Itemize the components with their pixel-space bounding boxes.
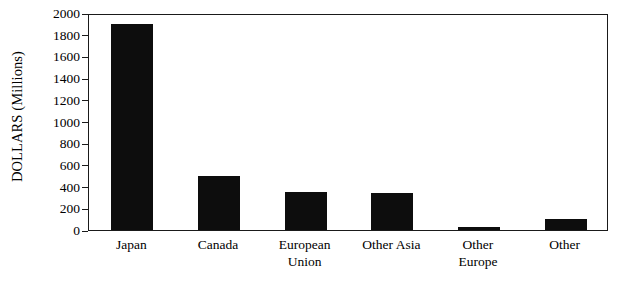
y-axis-tick-label: 0 — [32, 224, 80, 238]
y-axis-tick-label: 1400 — [32, 72, 80, 86]
y-axis-tick-label: 1800 — [32, 29, 80, 43]
plot-area — [88, 14, 608, 231]
x-axis-tick-labels: JapanCanadaEuropeanUnionOther AsiaOtherE… — [88, 236, 608, 294]
y-axis-title: DOLLARS (Millions) — [0, 0, 36, 232]
y-axis-tick-label: 200 — [32, 203, 80, 217]
bar — [111, 24, 153, 230]
bar — [458, 227, 500, 230]
y-axis-tick-label: 2000 — [32, 7, 80, 21]
x-axis-tick-label: Canada — [175, 236, 262, 253]
y-axis-tick-label: 600 — [32, 159, 80, 173]
y-axis-tick-label: 1200 — [32, 94, 80, 108]
x-axis-tick-label-line: Canada — [198, 237, 238, 252]
x-axis-tick-label-line: Other — [549, 237, 580, 252]
y-axis-tick-labels: 0200400600800100012001400160018002000 — [32, 14, 80, 231]
x-axis-tick-label: OtherEurope — [435, 236, 522, 270]
x-axis-tick-label: Japan — [88, 236, 175, 253]
x-axis-tick-label-line: Other — [463, 237, 494, 252]
bar — [371, 193, 413, 230]
x-axis-tick-label-line: European — [279, 237, 331, 252]
x-axis-tick-label: Other Asia — [348, 236, 435, 253]
x-axis-tick-label-line: Other Asia — [362, 237, 420, 252]
x-axis-tick-label-line: Europe — [435, 253, 522, 270]
x-axis-tick-label: EuropeanUnion — [261, 236, 348, 270]
bars-layer — [89, 15, 607, 230]
bar — [198, 176, 240, 230]
y-axis-tick-label: 1600 — [32, 51, 80, 65]
x-axis-tick-label-line: Union — [261, 253, 348, 270]
x-axis-tick-label: Other — [521, 236, 608, 253]
y-axis-title-label: DOLLARS (Millions) — [10, 50, 27, 181]
y-axis-tick-label: 800 — [32, 137, 80, 151]
y-axis-tick-label: 400 — [32, 181, 80, 195]
x-axis-tick-label-line: Japan — [116, 237, 147, 252]
bar — [285, 192, 327, 230]
bar — [545, 219, 587, 230]
y-axis-tick-label: 1000 — [32, 116, 80, 130]
bar-chart: DOLLARS (Millions) 020040060080010001200… — [0, 0, 625, 296]
